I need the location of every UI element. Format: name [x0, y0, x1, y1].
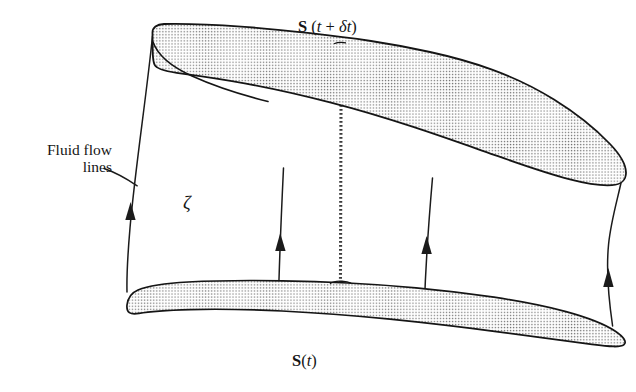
arrowhead — [421, 236, 431, 254]
close-paren: ) — [351, 17, 357, 36]
close-paren: ) — [311, 351, 317, 370]
open-paren: ( — [307, 17, 317, 36]
label-fluid-flow-lines: Fluid flow lines — [8, 141, 112, 176]
bottom-surface-shape — [118, 274, 636, 354]
fluid-flow-figure: S (t + δt) S(t) ζ Fluid flow lines — [0, 0, 636, 392]
delta-symbol: δ — [339, 17, 347, 36]
label-bottom-surface: S(t) — [292, 352, 317, 370]
plus-sign: + — [321, 17, 339, 36]
flow-line-5 — [603, 176, 622, 326]
fluid-flow-line2: lines — [8, 158, 112, 175]
arrowhead — [603, 268, 613, 287]
top-surface-shape — [144, 18, 636, 197]
arrowhead — [125, 202, 135, 220]
diagram-canvas — [0, 0, 636, 392]
surface-symbol-S: S — [292, 351, 301, 370]
label-top-surface: S (t + δt) — [298, 18, 357, 36]
flow-line-1 — [125, 36, 152, 292]
arrowhead — [275, 233, 285, 251]
fluid-flow-line1: Fluid flow — [47, 141, 112, 158]
surface-symbol-S: S — [298, 17, 307, 36]
label-zeta-symbol: ζ — [183, 192, 191, 213]
flow-line-4 — [421, 178, 432, 304]
